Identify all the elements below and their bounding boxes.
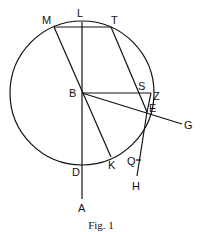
- label-E: E: [149, 102, 156, 114]
- label-S: S: [138, 80, 145, 92]
- point-labels: M L T B S Z E G K D Q H A: [42, 7, 193, 214]
- figure-caption: Fig. 1: [88, 219, 114, 231]
- label-A: A: [78, 202, 86, 214]
- label-H: H: [132, 180, 140, 192]
- label-Q: Q: [127, 155, 136, 167]
- label-B: B: [69, 87, 76, 99]
- label-D: D: [72, 166, 80, 178]
- label-G: G: [184, 119, 193, 131]
- label-M: M: [42, 14, 51, 26]
- label-L: L: [77, 7, 83, 19]
- line-TE: [111, 27, 147, 112]
- geometry-diagram: M L T B S Z E G K D Q H A Fig. 1: [0, 0, 202, 232]
- label-K: K: [108, 159, 116, 171]
- line-BG: [82, 93, 182, 124]
- label-Z: Z: [153, 90, 160, 102]
- label-T: T: [111, 14, 118, 26]
- line-EH: [137, 112, 147, 176]
